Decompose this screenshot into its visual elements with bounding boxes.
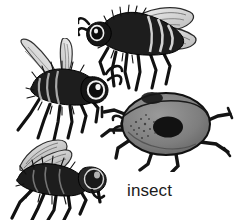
insect-illustration-plate: insect	[0, 0, 234, 220]
fly-compound-eye	[85, 169, 104, 189]
ladybug-elytra	[122, 92, 210, 155]
ladybug-upper-spot	[141, 92, 163, 104]
figure-ladybug-beetle	[100, 86, 234, 172]
caption-label: insect	[127, 181, 172, 201]
ladybug-center-spot	[153, 117, 183, 138]
bee-left-antennae	[106, 66, 122, 84]
figure-fly-bottom-left	[0, 136, 120, 220]
